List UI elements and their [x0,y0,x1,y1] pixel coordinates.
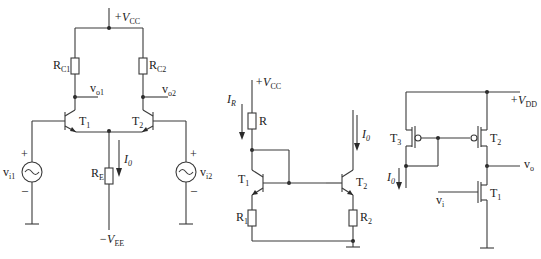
vi1-label: vi1 [3,165,15,181]
r-label: R [259,114,267,128]
t1-label: T1 [79,114,90,130]
resistor-re [105,168,113,184]
circuit-diagrams: +VCC RC1 vo1 RC2 vo2 T1 [0,0,541,259]
vee-label: −VEE [99,232,124,248]
resistor-r1 [248,210,256,226]
r2-label: R2 [360,210,372,226]
mos-amplifier-circuit: +VDD T3 I0 T2 [386,90,537,248]
transistor-t2-pmos [471,92,487,166]
ir-arrow-icon [239,132,245,140]
i0-label: I0 [123,152,132,168]
transistor-t2-npn [142,110,186,132]
transistor-t1-npn [32,110,76,132]
vi1-plus: + [21,147,28,161]
t3-label: T3 [390,131,401,147]
i0-arrow-icon [396,182,402,190]
t1-label-2: T1 [238,172,249,188]
transistor-t1-nmos [438,166,494,248]
vcc-label: +VCC [114,10,140,26]
vi2-minus: – [190,183,198,197]
vi-label: vi [436,193,445,209]
i0-label-3: I0 [386,170,395,186]
i0-label-2: I0 [361,127,370,143]
vo-label: vo [524,157,534,173]
vo2-label: vo2 [162,82,176,98]
re-label: RE [91,166,104,182]
differential-amplifier-circuit: +VCC RC1 vo1 RC2 vo2 T1 [3,8,212,248]
vo1-label: vo1 [90,81,104,97]
rc2-label: RC2 [149,58,166,74]
i0-arrow-icon [116,168,122,177]
t2-label-2: T2 [356,175,367,191]
vi2-plus: + [190,147,197,161]
bjt-current-mirror-circuit: +VCC R IR T1 T2 [226,75,372,247]
rc1-label: RC1 [53,58,70,74]
vi1-minus: – [21,183,29,197]
vdd-label: +VDD [510,93,537,109]
vi2-label: vi2 [200,165,212,181]
resistor-rc2 [139,58,147,74]
resistor-r [248,113,256,129]
t2-label-3: T2 [490,131,501,147]
resistor-rc1 [71,58,79,74]
resistor-r2 [349,210,357,226]
i0-arrow-icon [354,143,360,151]
t1-label-3: T1 [490,186,501,202]
t2-label: T2 [132,114,143,130]
vcc-label-2: +VCC [255,75,281,91]
ir-label: IR [226,92,236,108]
r1-label: R1 [236,210,248,226]
transistor-t2-npn [326,110,353,195]
